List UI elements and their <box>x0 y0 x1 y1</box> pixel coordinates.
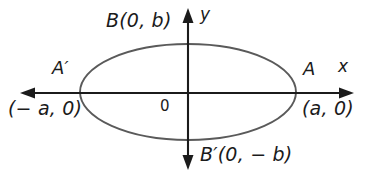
diagram-canvas <box>0 0 366 177</box>
y-axis-bottom-arrowhead <box>183 155 194 170</box>
x-axis-label: x <box>338 58 348 75</box>
y-axis-label: y <box>200 6 210 23</box>
vertex-left-label: A′ <box>52 59 69 77</box>
vertex-right-label: A <box>303 60 316 78</box>
origin-label: 0 <box>160 99 170 114</box>
ellipse-diagram: B(0, b) y A′ (− a, 0) A x (a, 0) 0 B′(0,… <box>0 0 366 177</box>
vertex-right-coords-label: (a, 0) <box>302 99 354 118</box>
vertex-left-coords-label: (− a, 0) <box>8 99 82 118</box>
covertex-bottom-label: B′(0, − b) <box>200 145 292 164</box>
y-axis-top-arrowhead <box>183 8 194 23</box>
covertex-top-label: B(0, b) <box>106 11 172 30</box>
